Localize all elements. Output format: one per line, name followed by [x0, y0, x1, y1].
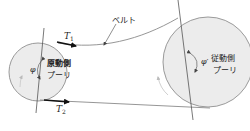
belt-label: ベルト [112, 17, 137, 25]
t2-arrow [44, 100, 69, 102]
t1-label: T1 [64, 32, 74, 42]
t2-label: T2 [56, 105, 66, 115]
driving-pulley-label-line1: 原動側 [47, 60, 72, 68]
belt-leader-arrow [104, 24, 116, 45]
driven-pulley-label-line2: プーリ [213, 67, 238, 75]
t1-subscript: 1 [70, 35, 74, 42]
t1-arrow [57, 42, 76, 46]
driven-pulley-label-line1: 従動側 [211, 55, 236, 63]
t2-subscript: 2 [62, 108, 66, 115]
driving-angle-label: φ [30, 66, 36, 74]
driven-angle-label: φ′ [201, 58, 208, 66]
driving-pulley-label-line2: プーリ [47, 72, 72, 80]
